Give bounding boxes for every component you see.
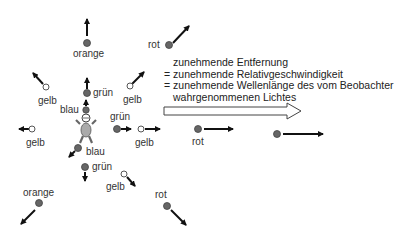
label-orange-top: orange xyxy=(73,48,105,59)
galaxy-blau-lower: blau xyxy=(69,145,105,158)
label-rot-lower-right: rot xyxy=(155,189,167,200)
galaxy-gruen-lower: grün xyxy=(82,161,113,181)
caption-line-3: = zunehmende Wellenlänge des vom Beobach… xyxy=(164,80,394,92)
galaxy-orange-top: orange xyxy=(73,19,105,59)
label-gelb-lower-right: gelb xyxy=(106,181,125,192)
label-gelb-upper-right: gelb xyxy=(123,94,142,105)
label-gelb-right: gelb xyxy=(135,137,154,148)
label-gruen-right: grün xyxy=(110,111,130,122)
galaxy-gelb-lower-right: gelb xyxy=(106,171,135,192)
galaxy-rot-top: rot xyxy=(148,26,189,50)
caption: zunehmende Entfernung = zunehmende Relat… xyxy=(164,57,394,103)
galaxy-gruen-upper: grün xyxy=(84,78,114,98)
redshift-diagram: orange rot gelb grün gelb blau xyxy=(0,0,400,240)
label-gelb-left: gelb xyxy=(26,137,45,148)
galaxy-gelb-upper-left: gelb xyxy=(33,73,57,106)
label-gruen-upper: grün xyxy=(93,87,113,98)
caption-line-1: zunehmende Entfernung xyxy=(164,57,394,69)
galaxy-gruen-right: grün xyxy=(110,111,131,133)
caption-line-4: wahrgenommenen Lichtes xyxy=(164,92,394,104)
galaxy-rot-right: rot xyxy=(192,126,233,148)
label-rot-top: rot xyxy=(148,39,160,50)
label-blau-upper: blau xyxy=(60,104,79,115)
galaxy-orange-lower-left: orange xyxy=(21,187,55,224)
galaxy-gelb-upper-right: gelb xyxy=(123,72,144,105)
label-gruen-lower: grün xyxy=(92,161,112,172)
galaxy-far-right xyxy=(274,131,324,138)
galaxy-gelb-left: gelb xyxy=(19,126,45,148)
label-gelb-upper-left: gelb xyxy=(38,95,57,106)
label-rot-right: rot xyxy=(192,136,204,147)
galaxy-rot-lower-right: rot xyxy=(155,189,186,225)
label-blau-lower: blau xyxy=(86,146,105,157)
galaxy-blau-upper: blau xyxy=(60,100,89,115)
increasing-distance-arrow xyxy=(164,103,301,119)
label-orange-lower-left: orange xyxy=(23,187,55,198)
galaxy-gelb-right: gelb xyxy=(135,126,160,148)
observer-figure xyxy=(76,114,96,143)
